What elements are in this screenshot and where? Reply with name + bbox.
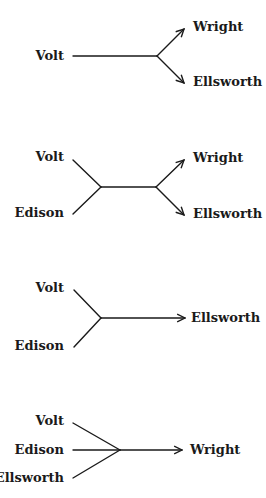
diagram-3: Volt Edison Ellsworth: [15, 280, 261, 353]
arrow-to-ellsworth: [156, 187, 184, 215]
label-edison: Edison: [15, 338, 65, 353]
arrow-to-wright: [157, 29, 184, 56]
arrow-to-ellsworth: [157, 56, 184, 83]
arrow-to-wright: [156, 160, 184, 187]
input-line-edison: [74, 318, 101, 347]
label-volt: Volt: [34, 48, 64, 63]
input-line-edison: [73, 187, 101, 214]
label-volt: Volt: [34, 413, 64, 428]
label-ellsworth: Ellsworth: [0, 470, 65, 485]
label-wright: Wright: [189, 442, 240, 457]
diagram-2: Volt Edison Wright Ellsworth: [15, 149, 263, 221]
diagram-4: Volt Edison Ellsworth Wright: [0, 413, 240, 485]
label-wright: Wright: [192, 150, 243, 165]
label-ellsworth: Ellsworth: [193, 74, 263, 89]
label-volt: Volt: [34, 280, 64, 295]
input-line-ellsworth: [73, 450, 120, 478]
input-line-volt: [73, 423, 120, 450]
label-edison: Edison: [15, 205, 65, 220]
label-volt: Volt: [34, 149, 64, 164]
input-line-volt: [74, 290, 101, 318]
input-line-volt: [73, 160, 101, 187]
diagram-1: Volt Wright Ellsworth: [34, 19, 262, 89]
label-ellsworth: Ellsworth: [191, 310, 261, 325]
label-ellsworth: Ellsworth: [193, 206, 263, 221]
flow-diagrams: Volt Wright Ellsworth Volt Edison Wright…: [0, 0, 266, 498]
label-wright: Wright: [192, 19, 243, 34]
label-edison: Edison: [15, 442, 65, 457]
